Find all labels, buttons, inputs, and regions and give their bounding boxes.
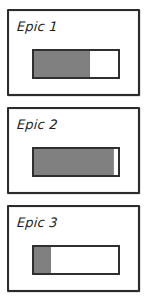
epic-progress-bar <box>32 49 120 79</box>
epic-progress-fill <box>34 149 114 175</box>
epic-card-title: Epic 2 <box>16 117 58 132</box>
epic-card[interactable]: Epic 2 <box>7 107 140 194</box>
epic-progress-bar <box>32 147 120 177</box>
epic-card-title: Epic 3 <box>16 215 58 230</box>
epic-progress-fill <box>34 51 90 77</box>
epic-progress-board: Epic 1 Epic 2 Epic 3 <box>0 0 149 296</box>
epic-progress-fill <box>34 247 51 273</box>
epic-progress-bar <box>32 245 120 275</box>
epic-card[interactable]: Epic 1 <box>7 9 140 96</box>
epic-card-title: Epic 1 <box>16 19 58 34</box>
epic-card[interactable]: Epic 3 <box>7 205 140 292</box>
